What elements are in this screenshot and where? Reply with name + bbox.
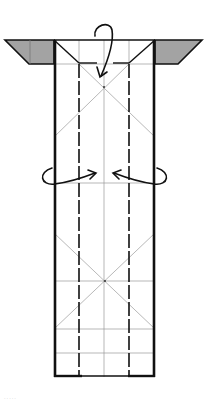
paper-outline <box>54 40 155 377</box>
left-flap <box>5 40 54 64</box>
lower-center-point <box>104 280 106 282</box>
fold-right-behind-arrow-icon <box>113 168 166 184</box>
upper-center-point <box>103 86 105 88</box>
fold-left-behind-arrow-icon <box>43 168 96 184</box>
origami-diagram <box>0 0 209 402</box>
caption: ..... <box>4 394 17 400</box>
fold-top-down-arrow-icon <box>95 25 113 77</box>
right-flap <box>155 40 202 64</box>
crease-lines <box>54 40 155 377</box>
top-folded-edges <box>54 40 155 63</box>
side-flaps <box>5 40 202 64</box>
